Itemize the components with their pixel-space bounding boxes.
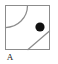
figure-panel: A	[0, 0, 58, 64]
filled-data-point-icon	[35, 22, 44, 31]
panel-label: A	[4, 52, 16, 63]
